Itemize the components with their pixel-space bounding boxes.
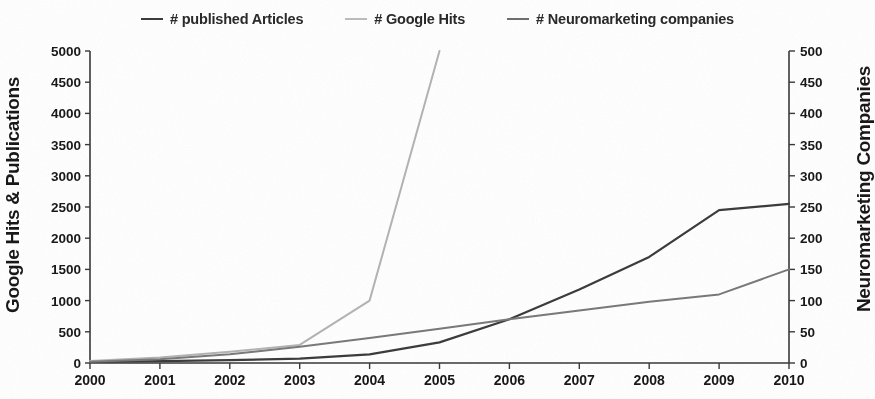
axis-lines	[90, 51, 789, 363]
svg-text:150: 150	[800, 262, 823, 277]
svg-text:50: 50	[800, 325, 815, 340]
svg-text:2001: 2001	[144, 372, 175, 388]
svg-text:450: 450	[800, 75, 823, 90]
svg-text:500: 500	[58, 325, 81, 340]
plot-svg: 0500100015002000250030003500400045005000…	[0, 0, 875, 399]
svg-text:2006: 2006	[494, 372, 525, 388]
svg-text:2009: 2009	[704, 372, 735, 388]
svg-text:300: 300	[800, 169, 823, 184]
svg-text:4000: 4000	[51, 106, 81, 121]
chart-figure: # published Articles # Google Hits # Neu…	[0, 0, 875, 399]
series-line-1	[90, 51, 440, 361]
svg-text:2008: 2008	[634, 372, 665, 388]
y-axis-left-ticks: 0500100015002000250030003500400045005000	[51, 44, 90, 371]
svg-text:1500: 1500	[51, 262, 81, 277]
svg-text:2010: 2010	[773, 372, 804, 388]
svg-text:1000: 1000	[51, 294, 81, 309]
svg-text:200: 200	[800, 231, 823, 246]
svg-text:2000: 2000	[74, 372, 105, 388]
plot-area: 0500100015002000250030003500400045005000…	[0, 0, 875, 399]
svg-text:3000: 3000	[51, 169, 81, 184]
series-line-2	[90, 269, 789, 361]
data-series-group	[90, 51, 789, 362]
svg-text:2002: 2002	[214, 372, 245, 388]
svg-text:2004: 2004	[354, 372, 385, 388]
svg-text:400: 400	[800, 106, 823, 121]
svg-text:350: 350	[800, 138, 823, 153]
svg-text:2500: 2500	[51, 200, 81, 215]
svg-text:5000: 5000	[51, 44, 81, 59]
svg-text:100: 100	[800, 294, 823, 309]
y-axis-right-ticks: 050100150200250300350400450500	[789, 44, 823, 371]
svg-text:2000: 2000	[51, 231, 81, 246]
svg-text:2005: 2005	[424, 372, 455, 388]
svg-text:500: 500	[800, 44, 823, 59]
svg-text:4500: 4500	[51, 75, 81, 90]
svg-text:3500: 3500	[51, 138, 81, 153]
x-axis-ticks: 2000200120022003200420052006200720082009…	[74, 363, 804, 388]
svg-text:0: 0	[800, 356, 808, 371]
svg-text:0: 0	[73, 356, 81, 371]
svg-text:2007: 2007	[564, 372, 595, 388]
series-line-0	[90, 204, 789, 362]
svg-text:250: 250	[800, 200, 823, 215]
svg-text:2003: 2003	[284, 372, 315, 388]
